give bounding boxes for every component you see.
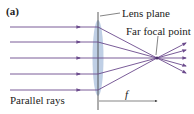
incoming-rays [10,27,98,90]
panel-label: (a) [6,6,19,17]
lens-plane-leader [100,13,120,16]
lens-plane-label: Lens plane [122,8,170,19]
far-focal-point-label: Far focal point [126,26,191,37]
focal-length-label: f [125,89,128,100]
focal-point-dot [155,56,158,59]
parallel-rays-label: Parallel rays [10,95,65,106]
focal-point-leader [156,36,158,55]
